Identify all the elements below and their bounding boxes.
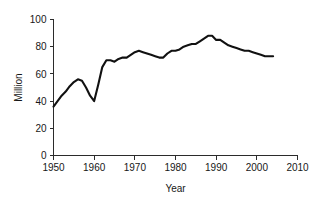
y-tick-label: 40 [35,96,47,107]
x-tick-label: 1990 [205,162,228,173]
y-axis-ticks: 020406080100 [30,14,54,161]
y-tick-label: 80 [35,41,47,52]
axes [54,20,298,156]
y-tick-label: 100 [30,14,47,25]
x-tick-label: 1950 [42,162,65,173]
y-tick-label: 20 [35,123,47,134]
data-series-line [54,36,274,107]
x-tick-label: 2000 [246,162,269,173]
y-tick-label: 0 [41,150,47,161]
x-tick-label: 1980 [164,162,187,173]
line-chart: 020406080100 195019601970198019902000201… [0,0,314,206]
chart-container: 020406080100 195019601970198019902000201… [0,0,314,206]
x-axis-ticks: 1950196019701980199020002010 [42,156,309,173]
x-axis-title: Year [165,183,186,194]
x-tick-label: 2010 [286,162,309,173]
x-tick-label: 1970 [124,162,147,173]
plot-area [54,36,274,107]
x-tick-label: 1960 [83,162,106,173]
y-tick-label: 60 [35,69,47,80]
y-axis-title: Million [13,73,24,101]
